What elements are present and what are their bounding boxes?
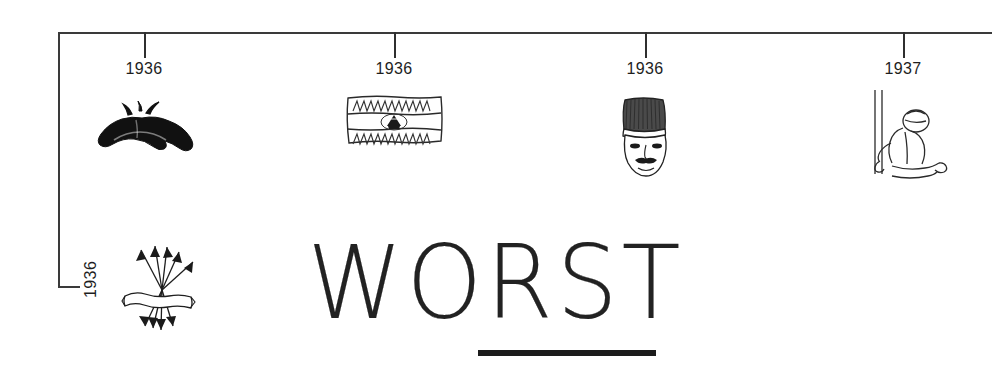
timeline-tick-4 (903, 32, 905, 58)
timeline-tick-1 (144, 32, 146, 58)
flag-icon (342, 92, 446, 166)
timeline-year-label-3: 1936 (626, 60, 663, 78)
page-title: WORST (0, 236, 992, 332)
timeline-tick-2 (394, 32, 396, 58)
timeline-year-label-1: 1936 (125, 60, 162, 78)
mustache-icon (84, 96, 204, 172)
fez-face-icon (602, 88, 688, 178)
timeline-page: 1936 1936 1936 1937 1936 (0, 0, 992, 366)
page-title-block: WORST (0, 236, 992, 327)
kneeling-figure-icon (853, 88, 953, 180)
page-title-underline (478, 350, 656, 356)
timeline-tick-3 (645, 32, 647, 58)
timeline-year-label-2: 1936 (375, 60, 412, 78)
timeline-year-label-4: 1937 (884, 60, 921, 78)
timeline-axis-horizontal (58, 32, 992, 34)
